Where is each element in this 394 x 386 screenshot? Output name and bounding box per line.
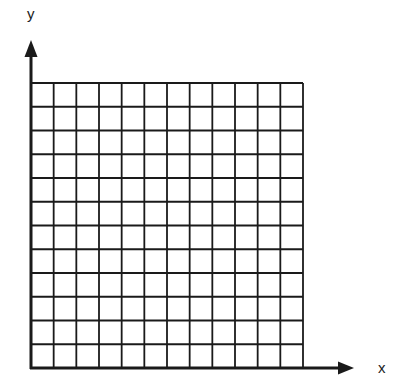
coordinate-grid-diagram [0,0,394,386]
grid-lines [31,83,303,368]
x-axis-label: x [378,360,386,375]
y-axis-arrow-icon [25,40,38,57]
y-axis-label: y [27,6,35,21]
x-axis-arrow-icon [338,362,354,375]
